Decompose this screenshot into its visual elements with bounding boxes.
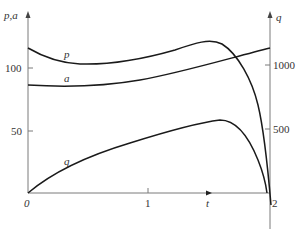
x-tick-2-label: 2 [272,197,278,209]
y-left-100-label: 100 [5,62,22,74]
y-right-1000-label: 1000 [273,59,296,71]
y-right-label: q [276,11,282,23]
x-tick-1-label: 1 [145,197,151,209]
left-axis-arrow-icon [26,11,31,18]
curve-q-label: q [64,155,70,167]
origin-label: 0 [24,197,30,209]
x-axis-arrow-icon [206,191,212,196]
curve-a-label: a [64,72,70,84]
y-right-500-label: 500 [273,123,290,135]
curve-p-label: p [63,48,70,60]
y-left-label: p,a [3,9,18,21]
y-left-50-label: 50 [11,125,23,137]
x-axis-label: t [206,197,210,209]
chart-canvas: p,a q t 0 1 2 100 50 1000 500 p a q [0,0,305,229]
curve-p [28,41,271,205]
right-axis-arrow-icon [268,11,273,18]
